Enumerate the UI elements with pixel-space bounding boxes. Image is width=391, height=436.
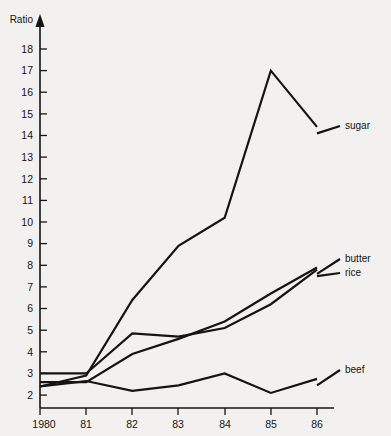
- x-tick-label: 81: [80, 418, 92, 430]
- y-tick-label: 15: [21, 108, 33, 120]
- series-label-rice: rice: [345, 267, 362, 278]
- x-tick-label: 83: [172, 418, 184, 430]
- y-tick-label: 5: [27, 324, 33, 336]
- y-tick-label: 10: [21, 216, 33, 228]
- y-tick-label: 16: [21, 86, 33, 98]
- y-tick-label: 8: [27, 259, 33, 271]
- chart-background: [0, 0, 391, 436]
- series-label-beef: beef: [345, 364, 365, 375]
- y-tick-label: 18: [21, 43, 33, 55]
- y-tick-label: 4: [27, 346, 33, 358]
- y-tick-label: 2: [27, 389, 33, 401]
- y-tick-label: 17: [21, 64, 33, 76]
- x-tick-label: 85: [265, 418, 277, 430]
- x-tick-label: 1980: [32, 418, 56, 430]
- ratio-line-chart: Ratio 18 17 16 15 14: [0, 0, 391, 436]
- y-tick-label: 13: [21, 151, 33, 163]
- y-tick-label: 11: [22, 194, 33, 206]
- x-tick-label: 86: [311, 418, 323, 430]
- chart-container: Ratio 18 17 16 15 14: [0, 0, 391, 436]
- series-label-butter: butter: [345, 253, 371, 264]
- y-axis-title: Ratio: [10, 14, 34, 25]
- y-tick-label: 14: [21, 129, 33, 141]
- y-tick-label: 9: [27, 237, 33, 249]
- x-tick-label: 82: [126, 418, 138, 430]
- x-tick-label: 84: [219, 418, 231, 430]
- y-tick-label: 3: [27, 367, 33, 379]
- series-label-sugar: sugar: [345, 120, 371, 131]
- y-tick-label: 7: [27, 281, 33, 293]
- y-tick-label: 12: [21, 173, 33, 185]
- y-tick-label: 6: [27, 302, 33, 314]
